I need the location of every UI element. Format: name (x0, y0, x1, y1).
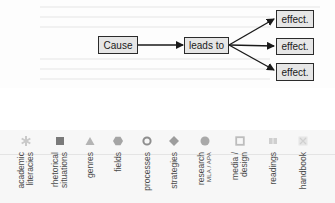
effect-box-2: effect. (276, 38, 314, 55)
tab-processes[interactable]: processes (132, 136, 162, 203)
asterisk-icon (21, 136, 31, 146)
arrow-to-effect-3 (229, 45, 274, 70)
tab-academic-literacies[interactable]: academicliteracies (11, 136, 41, 203)
tab-label: fields (104, 152, 132, 200)
tab-label: handbook (289, 152, 317, 200)
hexagon-icon (113, 136, 123, 146)
effect-box-1: effect. (276, 10, 314, 28)
tab-media-design[interactable]: media /design (225, 136, 255, 203)
tab-label: academicliteracies (12, 152, 40, 200)
tab-handbook[interactable]: handbook (288, 136, 318, 203)
ring-icon (142, 136, 152, 146)
book-icon (268, 136, 278, 146)
tab-label: strategies (160, 152, 188, 200)
arrow-to-effect-2 (229, 45, 274, 46)
tab-research[interactable]: researchMLA / APA (190, 136, 220, 203)
circle-icon (200, 136, 210, 146)
tab-label: media /design (226, 152, 254, 200)
effect-box-3: effect. (276, 63, 314, 81)
tab-label: rhetoricalsituations (46, 152, 74, 200)
cause-box: Cause (98, 36, 138, 54)
tab-label: readings (259, 152, 287, 200)
tab-strategies[interactable]: strategies (159, 136, 189, 203)
square-icon (55, 136, 65, 146)
leads-to-box: leads to (184, 37, 229, 54)
tab-rhetorical-situations[interactable]: rhetoricalsituations (45, 136, 75, 203)
x-square-icon (298, 136, 308, 146)
tab-label: genres (76, 152, 104, 200)
hollow-square-icon (235, 136, 245, 146)
triangle-icon (85, 136, 95, 146)
tab-label: processes (133, 152, 161, 200)
tab-genres[interactable]: genres (75, 136, 105, 203)
tab-label: researchMLA / APA (191, 152, 219, 200)
tab-readings[interactable]: readings (258, 136, 288, 203)
arrow-to-effect-1 (229, 19, 274, 45)
tab-fields[interactable]: fields (103, 136, 133, 203)
diamond-icon (169, 136, 179, 146)
